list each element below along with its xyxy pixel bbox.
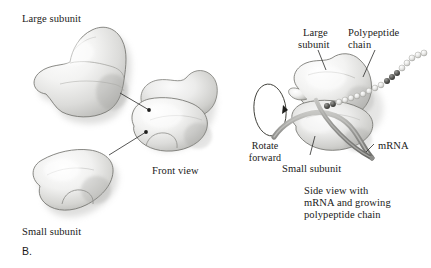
figure-panel-b: Large subunit Small subunit B. Front vie… (0, 0, 431, 268)
label-side-view-line2: mRNA and growing (304, 197, 391, 209)
label-front-view: Front view (152, 165, 199, 177)
assembled-ribosome-side-shape (289, 54, 384, 152)
label-rotate-forward-line1: Rotate (241, 140, 289, 151)
panel-letter: B. (22, 245, 32, 257)
label-polypeptide-chain-line2: chain (348, 39, 371, 51)
label-large-subunit-left: Large subunit (22, 13, 81, 25)
label-side-view-line1: Side view with (304, 185, 368, 197)
small-subunit-separate-shape (33, 149, 118, 217)
label-small-subunit-left: Small subunit (22, 226, 81, 238)
assembled-ribosome-front-shape (132, 71, 217, 152)
label-side-view-line3: polypeptide chain (304, 209, 381, 221)
large-subunit-separate-shape (34, 27, 131, 124)
label-large-subunit-right-line1: Large (303, 27, 328, 39)
label-rotate-forward-line2: forward (238, 152, 292, 163)
label-mrna: mRNA (378, 140, 409, 152)
label-polypeptide-chain-line1: Polypeptide (348, 27, 399, 39)
label-small-subunit-right: Small subunit (282, 163, 341, 175)
label-large-subunit-right-line2: subunit (298, 39, 330, 51)
